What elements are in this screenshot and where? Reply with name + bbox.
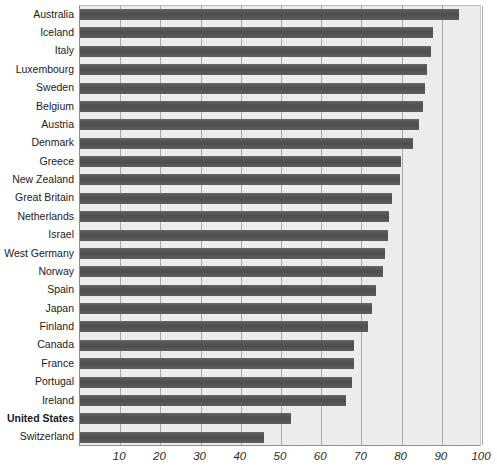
bar-row: [79, 336, 481, 354]
category-label: Ireland: [0, 394, 74, 406]
category-label: Canada: [0, 338, 74, 350]
x-tick-label: 10: [113, 450, 126, 462]
bar-row: [79, 299, 481, 317]
category-label: Norway: [0, 265, 74, 277]
x-tick-label: 50: [274, 450, 287, 462]
bar: [80, 101, 423, 112]
bar-row: [79, 262, 481, 280]
bar: [80, 46, 431, 57]
bar: [80, 156, 401, 167]
bar: [80, 358, 354, 369]
bar-row: [79, 152, 481, 170]
bar: [80, 9, 459, 20]
bar-row: [79, 354, 481, 372]
bar-row: [79, 134, 481, 152]
bar-row: [79, 189, 481, 207]
bar: [80, 230, 388, 241]
bars-container: [79, 5, 481, 446]
category-label: West Germany: [0, 247, 74, 259]
x-tick-label: 20: [153, 450, 166, 462]
bar: [80, 211, 389, 222]
bar: [80, 138, 413, 149]
x-tick-label: 70: [354, 450, 367, 462]
bar-row: [79, 373, 481, 391]
bar-row: [79, 97, 481, 115]
bar: [80, 377, 352, 388]
bar: [80, 83, 425, 94]
bar: [80, 413, 291, 424]
x-axis: 102030405060708090100: [0, 447, 497, 473]
x-tick-label: 90: [434, 450, 447, 462]
category-label: Denmark: [0, 136, 74, 148]
category-label: Portugal: [0, 375, 74, 387]
category-label: Switzerland: [0, 430, 74, 442]
bar: [80, 64, 427, 75]
category-label: Luxembourg: [0, 63, 74, 75]
bar-row: [79, 409, 481, 427]
bar-row: [79, 79, 481, 97]
bar: [80, 285, 376, 296]
category-label: Netherlands: [0, 210, 74, 222]
bar-row: [79, 428, 481, 446]
category-label: Italy: [0, 44, 74, 56]
category-label: Greece: [0, 155, 74, 167]
bar-row: [79, 226, 481, 244]
bar-row: [79, 207, 481, 225]
bar: [80, 248, 385, 259]
category-label: Australia: [0, 8, 74, 20]
bar: [80, 174, 400, 185]
category-label: Sweden: [0, 81, 74, 93]
bar: [80, 340, 354, 351]
bar-chart: AustraliaIcelandItalyLuxembourgSwedenBel…: [0, 0, 497, 473]
bar: [80, 193, 392, 204]
category-label: Japan: [0, 302, 74, 314]
bar: [80, 119, 419, 130]
bar-row: [79, 281, 481, 299]
bar-row: [79, 115, 481, 133]
bar: [80, 432, 264, 443]
category-label: France: [0, 357, 74, 369]
bar: [80, 27, 433, 38]
bar-row: [79, 42, 481, 60]
bar-row: [79, 170, 481, 188]
x-tick-label: 40: [233, 450, 246, 462]
bar: [80, 303, 372, 314]
category-label: Iceland: [0, 26, 74, 38]
bar: [80, 395, 346, 406]
category-label: Spain: [0, 283, 74, 295]
bar-row: [79, 23, 481, 41]
category-label: New Zealand: [0, 173, 74, 185]
bar-row: [79, 391, 481, 409]
x-tick-label: 100: [471, 450, 490, 462]
category-label: Israel: [0, 228, 74, 240]
gridline-100: [482, 6, 483, 445]
bar: [80, 266, 383, 277]
x-tick-label: 60: [314, 450, 327, 462]
x-tick-label: 30: [193, 450, 206, 462]
category-axis-labels: AustraliaIcelandItalyLuxembourgSwedenBel…: [0, 5, 77, 446]
category-label: Belgium: [0, 100, 74, 112]
bar-row: [79, 244, 481, 262]
category-label: United States: [0, 412, 74, 424]
bar-row: [79, 5, 481, 23]
category-label: Austria: [0, 118, 74, 130]
bar-row: [79, 317, 481, 335]
x-tick-label: 80: [394, 450, 407, 462]
bar: [80, 321, 368, 332]
bar-row: [79, 60, 481, 78]
category-label: Finland: [0, 320, 74, 332]
category-label: Great Britain: [0, 191, 74, 203]
